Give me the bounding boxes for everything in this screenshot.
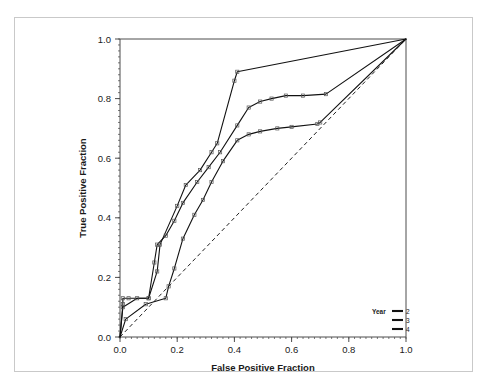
y-tick-label-2: 0.4	[98, 212, 111, 223]
x-tick-label-5: 1.0	[399, 344, 412, 355]
x-tick-label-4: 0.8	[342, 344, 355, 355]
legend-label-year-4: 4	[406, 326, 410, 333]
y-tick-label-5: 1.0	[98, 34, 111, 45]
y-tick-label-1: 0.2	[98, 272, 111, 283]
legend-label-year-3: 3	[406, 317, 410, 324]
x-tick-label-1: 0.2	[171, 344, 184, 355]
data-point-markers	[121, 70, 327, 321]
reference-diagonal-line	[120, 39, 406, 337]
y-tick-label-0: 0.0	[98, 332, 111, 343]
roc-figure: 0.00.20.40.60.81.00.00.20.40.60.81.0 Fal…	[0, 0, 490, 390]
y-tick-label-3: 0.6	[98, 153, 111, 164]
chance-diagonal	[120, 39, 406, 337]
x-tick-label-2: 0.4	[228, 344, 241, 355]
legend-label-year-2: 2	[406, 308, 410, 315]
tick-labels: 0.00.20.40.60.81.00.00.20.40.60.81.0	[98, 34, 413, 356]
y-tick-label-4: 0.8	[98, 93, 111, 104]
x-tick-label-0: 0.0	[113, 344, 126, 355]
y-axis-title: True Positive Fraction	[77, 138, 88, 237]
x-axis-title: False Positive Fraction	[211, 362, 315, 373]
x-tick-label-3: 0.6	[285, 344, 298, 355]
legend: Year234	[372, 308, 410, 333]
legend-title: Year	[372, 308, 386, 315]
roc-chart: 0.00.20.40.60.81.00.00.20.40.60.81.0 Fal…	[0, 0, 490, 390]
axis-titles: False Positive FractionTrue Positive Fra…	[77, 138, 315, 373]
